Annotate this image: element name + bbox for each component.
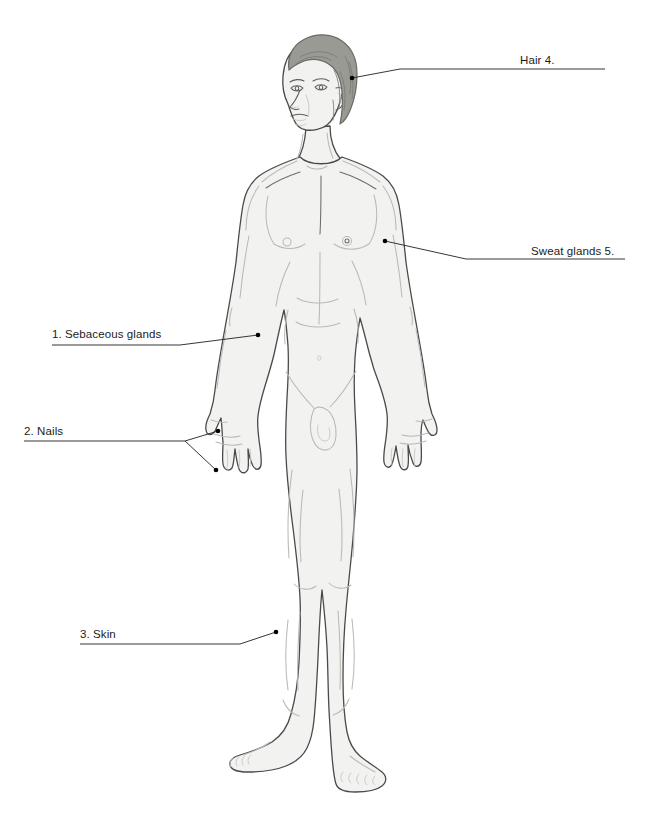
torso-and-limbs <box>206 157 437 792</box>
callout-label-skin: 3. Skin <box>80 628 116 641</box>
leader-dot-sebaceous <box>256 333 261 338</box>
callout-label-sebaceous-glands: 1. Sebaceous glands <box>52 328 161 341</box>
callout-label-sweat-glands: Sweat glands 5. <box>531 245 614 258</box>
leader-line-nails-branch-fingers <box>185 441 216 470</box>
callout-label-nails: 2. Nails <box>24 425 63 438</box>
leader-line-nails-branch-thumb <box>185 431 218 441</box>
leader-dot-nails-fingers <box>214 468 219 473</box>
leader-dot-hair <box>350 76 355 81</box>
leader-line-hair <box>352 69 605 78</box>
leader-dot-sweat <box>383 239 388 244</box>
callout-label-hair: Hair 4. <box>520 54 555 67</box>
body-figure <box>206 35 437 792</box>
leader-dot-nails-thumb <box>216 429 221 434</box>
calf-left <box>286 620 288 690</box>
leader-dot-skin <box>274 630 279 635</box>
calf-right <box>352 619 354 689</box>
anatomy-diagram-page: .sk { fill:#f2f2f0; stroke:#4a4a4a; stro… <box>0 0 655 831</box>
anatomy-figure-svg: .sk { fill:#f2f2f0; stroke:#4a4a4a; stro… <box>0 0 655 831</box>
